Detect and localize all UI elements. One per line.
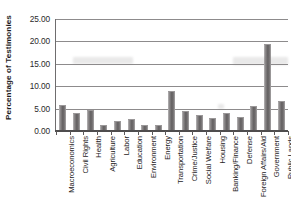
bar-slot <box>138 19 152 130</box>
x-label-slot: Environment <box>137 136 151 221</box>
bar-slot <box>165 19 179 130</box>
bar-slot <box>111 19 125 130</box>
x-tick <box>247 131 248 135</box>
bar-slot <box>220 19 234 130</box>
x-tick <box>165 131 166 135</box>
x-tick <box>152 131 153 135</box>
x-label-slot: Government <box>261 136 275 221</box>
bar[interactable] <box>250 106 257 130</box>
x-label-slot: Health <box>82 136 96 221</box>
x-label-slot: Social Welfare <box>192 136 206 221</box>
x-tick <box>179 131 180 135</box>
bar[interactable] <box>155 125 162 130</box>
x-label-slot: Macroeconomics <box>55 136 69 221</box>
x-tick <box>274 131 275 135</box>
bar[interactable] <box>87 110 94 130</box>
x-tick <box>261 131 262 135</box>
y-tick-label: 25.00 <box>30 14 50 24</box>
bar-slot <box>70 19 84 130</box>
bar[interactable] <box>237 117 244 130</box>
x-tick <box>56 131 57 135</box>
x-label-slot: Defense <box>233 136 247 221</box>
bar-slot <box>151 19 165 130</box>
x-tick <box>233 131 234 135</box>
bar-slot <box>206 19 220 130</box>
x-label-slot: Agriculture <box>96 136 110 221</box>
x-tick <box>83 131 84 135</box>
x-tick <box>138 131 139 135</box>
x-tick <box>70 131 71 135</box>
y-tick-label: 20.00 <box>30 36 50 46</box>
x-axis-category-labels: MacroeconomicsCivil RightsHealthAgricult… <box>55 136 288 221</box>
x-tick <box>192 131 193 135</box>
bar-chart-figure: Percentage of Testimonies 0.005.0010.001… <box>0 0 291 221</box>
x-label-slot: Housing <box>206 136 220 221</box>
x-category-label: Public Lands <box>286 136 291 179</box>
x-label-slot: Education <box>124 136 138 221</box>
bar-slot <box>83 19 97 130</box>
x-tick <box>97 131 98 135</box>
x-tick <box>220 131 221 135</box>
y-axis-tick-labels: 0.005.0010.0015.0020.0025.00 <box>16 15 53 132</box>
x-label-slot: Foreign Affairs/Aid <box>247 136 261 221</box>
bar-slot <box>261 19 275 130</box>
bar[interactable] <box>114 121 121 130</box>
x-label-slot: Labor <box>110 136 124 221</box>
bar-slot <box>124 19 138 130</box>
bar[interactable] <box>196 115 203 130</box>
bar-slot <box>247 19 261 130</box>
x-label-slot: Civil Rights <box>69 136 83 221</box>
bar[interactable] <box>100 125 107 130</box>
bar[interactable] <box>264 44 271 130</box>
y-tick-label: 5.00 <box>34 104 50 114</box>
bar-slot <box>192 19 206 130</box>
x-tick <box>124 131 125 135</box>
bar[interactable] <box>168 91 175 130</box>
x-tick <box>288 131 289 135</box>
x-label-slot: Energy <box>151 136 165 221</box>
x-label-slot: Public Lands <box>274 136 288 221</box>
bar[interactable] <box>278 101 285 130</box>
x-label-slot: Crime/Justice <box>178 136 192 221</box>
bar-slot <box>274 19 288 130</box>
x-label-slot: Banking/Finance <box>219 136 233 221</box>
y-axis-title: Percentage of Testimonies <box>0 0 16 134</box>
y-axis-title-text: Percentage of Testimonies <box>4 15 13 120</box>
x-label-slot: Transportation <box>165 136 179 221</box>
y-tick-label: 10.00 <box>30 81 50 91</box>
bar-series <box>56 19 288 130</box>
bar[interactable] <box>73 113 80 130</box>
bar-slot <box>56 19 70 130</box>
bar[interactable] <box>182 111 189 130</box>
bar[interactable] <box>128 119 135 130</box>
y-tick-label: 15.00 <box>30 59 50 69</box>
bar-slot <box>179 19 193 130</box>
bar[interactable] <box>209 118 216 130</box>
x-tick <box>111 131 112 135</box>
bar[interactable] <box>141 125 148 130</box>
plot-area <box>55 19 288 131</box>
bar[interactable] <box>223 113 230 130</box>
y-tick-label: 0.00 <box>34 126 50 136</box>
bar-slot <box>233 19 247 130</box>
bar[interactable] <box>59 105 66 130</box>
x-tick <box>206 131 207 135</box>
bar-slot <box>97 19 111 130</box>
